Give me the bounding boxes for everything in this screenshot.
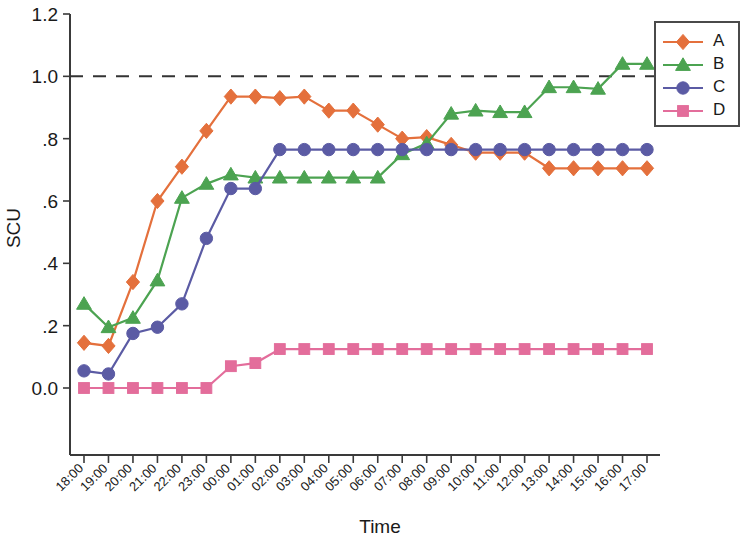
x-axis-tick-label: 13:00 [518,461,552,495]
data-point-marker [323,143,335,155]
x-axis-tick-label: 23:00 [175,461,209,495]
data-point-marker [299,344,310,355]
legend-label-D: D [713,100,725,119]
data-point-marker [372,344,383,355]
series-line-D [84,349,647,388]
data-point-marker [201,383,212,394]
data-point-marker [543,143,555,155]
data-point-marker [641,143,653,155]
y-axis-tick-label: .2 [42,316,58,337]
data-point-marker [175,191,190,204]
data-point-marker [495,344,506,355]
data-point-marker [396,143,408,155]
x-axis-tick-label: 00:00 [199,461,233,495]
chart-container: 0.0.2.4.6.81.01.218:0019:0020:0021:0022:… [0,0,742,545]
line-chart: 0.0.2.4.6.81.01.218:0019:0020:0021:0022:… [0,0,742,545]
data-point-marker [223,167,238,180]
data-point-marker [225,182,237,194]
data-point-marker [102,368,114,380]
x-axis-tick-label: 18:00 [53,461,87,495]
x-axis-tick-label: 20:00 [101,461,135,495]
y-axis-title: SCU [3,208,24,248]
data-point-marker [397,344,408,355]
x-axis-tick-label: 22:00 [150,461,184,495]
data-point-marker [323,344,334,355]
y-axis-tick-label: .8 [42,129,58,150]
data-point-marker [200,232,212,244]
data-point-marker [568,344,579,355]
data-point-marker [542,161,555,176]
x-axis-tick-label: 01:00 [224,461,258,495]
legend-label-A: A [713,31,725,50]
data-point-marker [642,344,653,355]
x-axis-tick-label: 05:00 [322,461,356,495]
y-axis-tick-label: .4 [42,253,58,274]
data-point-marker [78,365,90,377]
x-axis-tick-label: 09:00 [420,461,454,495]
data-point-marker [518,143,530,155]
data-point-marker [347,143,359,155]
data-point-marker [372,143,384,155]
y-axis-tick-label: .6 [42,191,58,212]
data-point-marker [225,361,236,372]
x-axis-tick-label: 04:00 [297,461,331,495]
data-point-marker [298,89,311,104]
x-axis-tick-label: 21:00 [126,461,160,495]
legend-label-C: C [713,77,725,96]
y-axis-tick-label: 1.2 [32,4,58,25]
x-axis-tick-label: 02:00 [248,461,282,495]
series-line-A [84,97,647,346]
legend-label-B: B [713,54,724,73]
data-point-marker [128,383,139,394]
data-point-marker [127,327,139,339]
data-point-marker [567,161,580,176]
data-point-marker [640,161,653,176]
data-point-marker [678,106,689,117]
data-point-marker [617,344,628,355]
data-point-marker [348,344,359,355]
y-axis-tick-label: 0.0 [32,378,58,399]
data-point-marker [103,383,114,394]
data-point-marker [250,358,261,369]
x-axis-tick-label: 07:00 [371,461,405,495]
data-point-marker [544,344,555,355]
x-axis-tick-label: 16:00 [591,461,625,495]
data-point-marker [126,311,141,324]
data-point-marker [446,344,457,355]
data-point-marker [102,338,115,353]
data-point-marker [591,161,604,176]
data-point-marker [77,297,92,310]
x-axis-tick-label: 08:00 [395,461,429,495]
series-D [79,344,653,394]
data-point-marker [592,143,604,155]
data-point-marker [677,82,689,94]
x-axis-tick-label: 15:00 [567,461,601,495]
x-axis-tick-label: 14:00 [542,461,576,495]
data-point-marker [445,143,457,155]
data-point-marker [371,117,384,132]
data-point-marker [593,344,604,355]
data-point-marker [420,143,432,155]
data-point-marker [421,344,432,355]
data-point-marker [152,383,163,394]
y-axis-tick-label: 1.0 [32,66,58,87]
data-point-marker [77,335,90,350]
data-point-marker [347,103,360,118]
data-point-marker [470,344,481,355]
data-point-marker [567,143,579,155]
x-axis-title: Time [359,516,401,537]
data-point-marker [616,143,628,155]
data-point-marker [616,161,629,176]
x-axis-tick-label: 12:00 [493,461,527,495]
data-point-marker [273,91,286,106]
data-point-marker [177,383,188,394]
data-point-marker [249,182,261,194]
data-point-marker [79,383,90,394]
data-point-marker [469,143,481,155]
data-point-marker [176,298,188,310]
data-point-marker [274,344,285,355]
data-point-marker [519,344,530,355]
data-point-marker [298,143,310,155]
x-axis-tick-label: 06:00 [346,461,380,495]
data-point-marker [322,103,335,118]
